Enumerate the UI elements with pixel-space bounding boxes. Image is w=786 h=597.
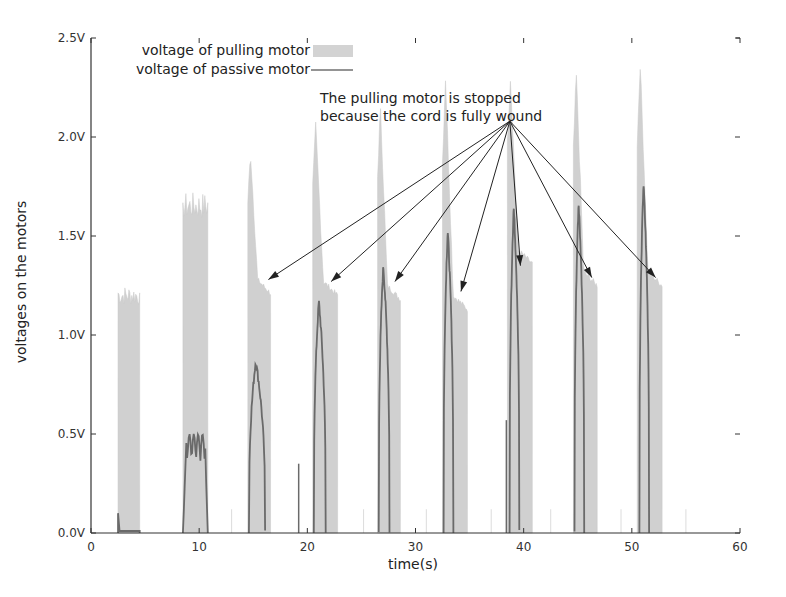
y-tick-label: 0.0V [58,526,86,540]
annotation-arrows [268,121,655,291]
pulling-burst [118,288,140,533]
legend-swatch-pulling [313,45,353,57]
y-tick-label: 1.5V [58,229,86,243]
y-tick-label: 1.0V [58,328,86,342]
arrowhead-icon [460,280,467,291]
x-tick-label: 40 [516,540,531,554]
pulling-burst [183,193,208,533]
pulling-burst [248,161,271,533]
y-tick-label: 2.5V [58,31,86,45]
x-axis-title: time(s) [388,556,438,572]
annotation-line-1: The pulling motor is stopped [319,90,521,106]
legend: voltage of pulling motor voltage of pass… [136,42,353,77]
arrowhead-icon [268,271,279,280]
y-axis-title: voltages on the motors [13,201,29,364]
x-tick-label: 10 [192,540,207,554]
x-tick-label: 30 [408,540,423,554]
annotation-arrow-line [461,121,510,291]
voltage-chart: 0.0V0.5V1.0V1.5V2.0V2.5V 0102030405060 t… [0,0,786,597]
y-tick-label: 0.5V [58,427,86,441]
annotation-arrow-line [395,121,510,281]
annotation-arrow-line [268,121,509,279]
pulling-burst [573,75,597,533]
pulling-motor-series [118,69,686,533]
x-tick-label: 50 [624,540,639,554]
annotation: The pulling motor is stopped because the… [268,90,655,291]
legend-label-pulling: voltage of pulling motor [142,42,311,58]
annotation-arrow-line [331,121,510,281]
y-tick-label: 2.0V [58,130,86,144]
x-tick-label: 60 [732,540,747,554]
arrowhead-icon [395,271,404,282]
x-tick-label: 0 [87,540,95,554]
x-tick-label: 20 [300,540,315,554]
legend-label-passive: voltage of passive motor [136,61,310,77]
